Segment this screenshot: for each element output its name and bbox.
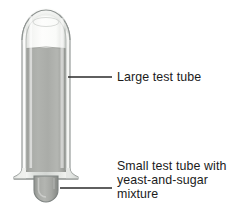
callout-label-large-test-tube: Large test tube <box>117 70 201 84</box>
large-test-tube-glass <box>14 8 78 179</box>
highlight-edge-left <box>24 40 25 168</box>
highlight-right <box>61 18 64 168</box>
fermentation-diagram: Large test tube Small test tube with yea… <box>0 0 244 214</box>
callout-label-small-test-tube: Small test tube with yeast-and-sugar mix… <box>117 159 226 202</box>
highlight-left <box>30 16 33 168</box>
foot-flare-right <box>66 168 78 179</box>
foot-flare-left <box>14 168 26 179</box>
small-test-tube <box>34 176 58 202</box>
